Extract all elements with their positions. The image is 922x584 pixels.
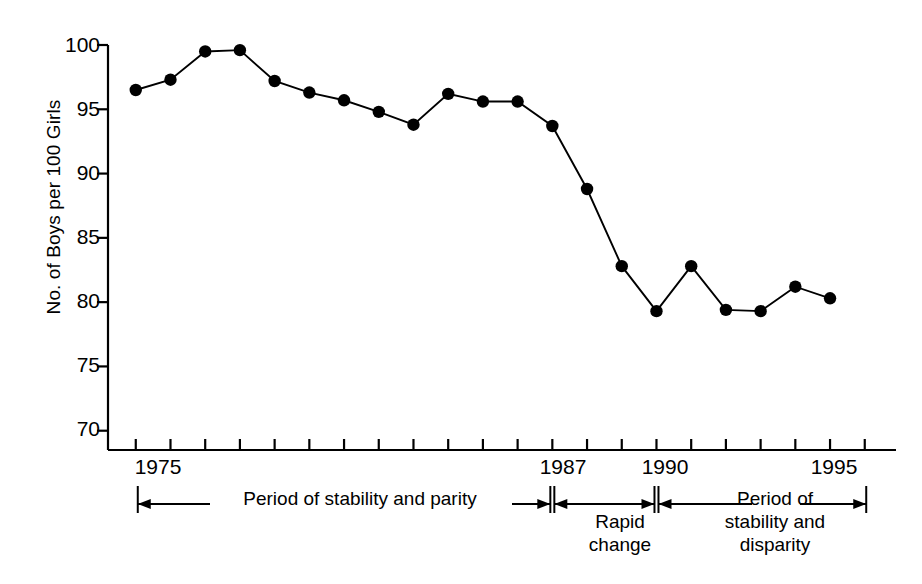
x-axis-ticks bbox=[136, 439, 865, 450]
axes bbox=[108, 45, 896, 450]
data-point-markers bbox=[130, 44, 837, 317]
data-series-line bbox=[136, 50, 830, 311]
plot-area bbox=[0, 0, 922, 584]
annotation-brackets bbox=[138, 486, 866, 513]
chart-canvas: No. of Boys per 100 Girls 100 95 90 85 8… bbox=[0, 0, 922, 584]
y-axis-ticks bbox=[97, 45, 108, 431]
